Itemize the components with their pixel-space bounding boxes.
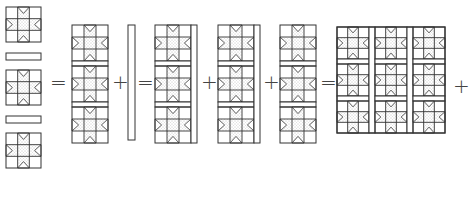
star-block: [337, 101, 369, 133]
horizontal-sashing-strip: [280, 61, 316, 66]
vertical-sashing-strip: [369, 27, 375, 133]
equals-sign: =: [320, 72, 337, 92]
equals-sign: =: [50, 72, 67, 92]
horizontal-sashing-strip: [6, 53, 41, 60]
star-block: [6, 133, 41, 168]
star-block: [72, 25, 108, 61]
star-block: [375, 27, 407, 59]
horizontal-sashing-strip: [155, 61, 191, 66]
star-block: [337, 64, 369, 96]
star-block: [280, 107, 316, 143]
star-block: [72, 107, 108, 143]
plus-sign: +: [263, 72, 280, 92]
loose-pieces-column: [6, 7, 41, 168]
horizontal-sashing-strip: [337, 59, 369, 64]
star-block: [155, 66, 191, 102]
plus-sign: +: [453, 76, 470, 96]
vertical-sashing-strip: [191, 25, 197, 143]
horizontal-sashing-strip: [337, 96, 369, 101]
equals-sign: =: [137, 72, 154, 92]
star-block: [6, 7, 41, 42]
star-block: [155, 107, 191, 143]
sewn-column: [155, 25, 197, 143]
horizontal-sashing-strip: [218, 61, 254, 66]
sewn-column: [280, 25, 316, 143]
star-block: [375, 101, 407, 133]
sewn-column: [413, 27, 445, 133]
vertical-sashing-strip: [254, 25, 260, 143]
star-block: [375, 64, 407, 96]
star-block: [218, 25, 254, 61]
sewn-column: [337, 27, 375, 133]
star-block: [280, 66, 316, 102]
vertical-sashing-strip: [128, 25, 135, 140]
star-block: [155, 25, 191, 61]
star-block: [218, 66, 254, 102]
horizontal-sashing-strip: [413, 59, 445, 64]
sewn-column: [72, 25, 108, 143]
horizontal-sashing-strip: [280, 102, 316, 107]
star-block: [280, 25, 316, 61]
quilt-top: [337, 27, 445, 133]
sewn-column: [218, 25, 260, 143]
plus-sign: +: [112, 72, 129, 92]
horizontal-sashing-strip: [155, 102, 191, 107]
star-block: [218, 107, 254, 143]
horizontal-sashing-strip: [72, 102, 108, 107]
vertical-sashing-strip: [407, 27, 413, 133]
star-block: [72, 66, 108, 102]
sewn-column: [375, 27, 413, 133]
star-block: [413, 101, 445, 133]
plus-sign: +: [201, 72, 218, 92]
horizontal-sashing-strip: [218, 102, 254, 107]
horizontal-sashing-strip: [413, 96, 445, 101]
horizontal-sashing-strip: [6, 116, 41, 123]
horizontal-sashing-strip: [72, 61, 108, 66]
star-block: [6, 70, 41, 105]
star-block: [337, 27, 369, 59]
horizontal-sashing-strip: [375, 96, 407, 101]
star-block: [413, 64, 445, 96]
horizontal-sashing-strip: [375, 59, 407, 64]
star-block: [413, 27, 445, 59]
